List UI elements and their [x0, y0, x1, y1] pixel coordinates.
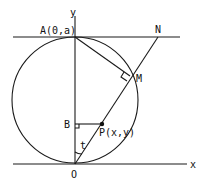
point-P-dot — [100, 122, 104, 126]
label-t: t — [80, 140, 86, 151]
label-M: M — [136, 73, 142, 84]
y-axis-label: y — [70, 7, 76, 18]
label-A: A(0,a) — [40, 25, 76, 36]
label-B: B — [64, 119, 70, 130]
label-O: O — [71, 169, 77, 180]
line-ON — [75, 37, 158, 164]
right-angle-marker-B — [75, 124, 79, 128]
label-P: P(x,y) — [99, 127, 135, 138]
label-N: N — [155, 24, 161, 35]
x-axis-label: x — [190, 159, 196, 170]
angle-arc-t — [75, 152, 82, 154]
geometry-diagram: y x A(0,a) N M B P(x,y) O t — [0, 0, 209, 185]
